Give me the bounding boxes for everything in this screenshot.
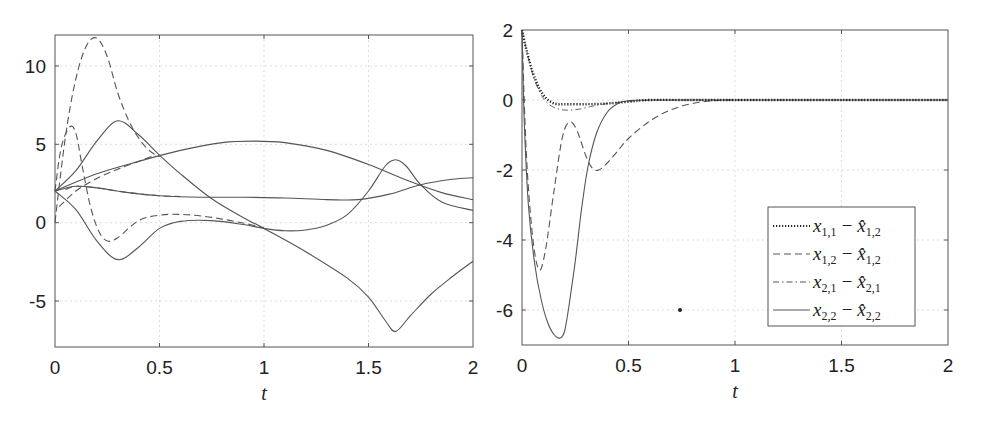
left-y-tick-labels: 10 5 0 -5 (25, 56, 46, 312)
series-line-solid (55, 160, 473, 260)
y-tick-label: -4 (496, 230, 513, 251)
x-tick-label: 0 (517, 355, 528, 376)
y-tick-label: 10 (25, 56, 46, 77)
x-tick-label: 1.5 (355, 357, 381, 378)
x-tick-label: 1 (730, 355, 741, 376)
left-x-tick-labels: 0 0.5 1 1.5 2 (50, 357, 479, 378)
series-line-dashed (59, 155, 155, 207)
x-tick-label: 0.5 (146, 357, 172, 378)
y-tick-label: -6 (496, 300, 513, 321)
right-plot: 2 0 -2 -4 -6 0 0.5 1 1.5 2 t x1,1−x̂1,2 (496, 20, 953, 402)
right-y-tick-labels: 2 0 -2 -4 -6 (496, 20, 513, 321)
x-tick-label: 2 (943, 355, 954, 376)
x-tick-label: 1 (259, 357, 270, 378)
y-tick-label: -5 (29, 291, 46, 312)
right-x-axis-label: t (732, 380, 738, 402)
series-line-dashed (66, 186, 181, 196)
y-tick-label: 5 (35, 134, 46, 155)
x-tick-label: 0 (50, 357, 61, 378)
x-tick-label: 2 (468, 357, 479, 378)
x-tick-label: 1.5 (828, 355, 854, 376)
left-plot: 10 5 0 -5 0 0.5 1 1.5 2 t (25, 35, 478, 404)
left-x-axis-label: t (261, 382, 267, 404)
legend: x1,1−x̂1,2 x1,2−x̂1,2 x2,1−x̂2,1 x2,2−x̂… (768, 207, 915, 326)
stray-data-point (678, 308, 682, 312)
figure: 10 5 0 -5 0 0.5 1 1.5 2 t (0, 0, 981, 423)
y-tick-label: 2 (502, 20, 513, 41)
x-tick-label: 0.5 (615, 355, 641, 376)
y-tick-label: 0 (502, 90, 513, 111)
y-tick-label: 0 (35, 212, 46, 233)
right-x-tick-labels: 0 0.5 1 1.5 2 (517, 355, 954, 376)
y-tick-label: -2 (496, 160, 513, 181)
